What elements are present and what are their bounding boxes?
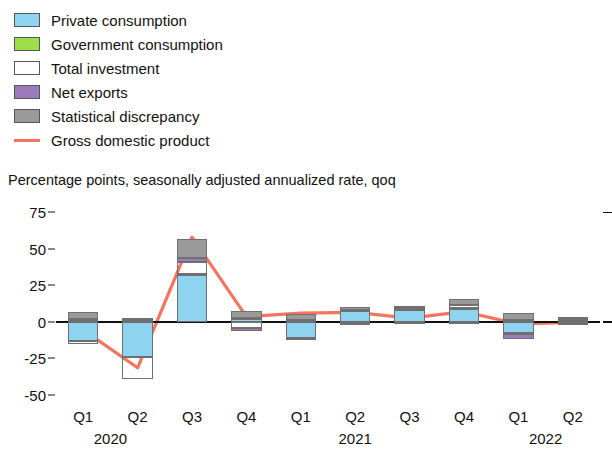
legend-item: Government consumption [14,32,344,56]
legend-item-label: Private consumption [51,12,187,29]
x-tick-label: Q3 [400,408,420,425]
bar-segment [68,341,98,344]
bar-segment [122,318,152,320]
legend-line-icon [14,133,40,147]
y-tick-mark [48,212,55,213]
bar-segment [177,239,207,258]
bar-segment [68,312,98,319]
y-tick-mark-right [603,212,612,214]
bar-segment [177,275,207,322]
bar-segment [231,318,261,320]
bar-segment [558,317,588,319]
y-tick-mark [48,358,55,359]
y-tick-label: 0 [2,313,46,330]
y-tick-mark [48,248,55,249]
bar-segment [286,314,316,320]
x-tick-label: Q2 [563,408,583,425]
x-tick-label: Q4 [236,408,256,425]
legend-item: Private consumption [14,8,344,32]
legend-item-label: Statistical discrepancy [51,108,199,125]
bar-segment [286,322,316,338]
bar-segment [122,357,152,379]
chart-subtitle: Percentage points, seasonally adjusted a… [8,172,396,188]
y-tick-mark [48,285,55,286]
bar-segment [340,307,370,310]
y-tick-mark-right [603,321,612,323]
legend-item: Total investment [14,56,344,80]
legend-item-label: Gross domestic product [51,132,209,149]
y-tick-label: -50 [2,386,46,403]
x-tick-label: Q4 [454,408,474,425]
bar-segment [286,338,316,340]
legend-swatch-icon [14,37,40,51]
bar-segment [394,322,424,324]
x-tick-label: Q1 [508,408,528,425]
legend-item-label: Net exports [51,84,128,101]
bar-segment [449,308,479,310]
bar-segment [122,322,152,357]
bar-segment [231,311,261,318]
bar-segment [449,322,479,324]
bar-segment [286,320,316,322]
bar-segment [177,258,207,262]
legend-swatch-icon [14,13,40,27]
bar-segment [449,299,479,306]
bar-segment [449,309,479,322]
x-axis: Q1Q2Q3Q4Q1Q2Q3Q4Q1Q2202020212022 [56,408,600,450]
x-tick-label: Q1 [73,408,93,425]
x-tick-label: Q3 [182,408,202,425]
bar-segment [503,322,533,334]
bar-segment [503,334,533,338]
x-tick-label: Q1 [291,408,311,425]
legend-item: Net exports [14,80,344,104]
x-year-label: 2021 [339,430,372,447]
y-tick-label: 75 [2,204,46,221]
legend-item-label: Total investment [51,60,159,77]
legend-item-label: Government consumption [51,36,223,53]
y-tick-label: -25 [2,350,46,367]
bar-segment [503,320,533,322]
legend-item: Gross domestic product [14,128,344,152]
bar-segment [68,322,98,341]
bar-segment [177,262,207,274]
y-tick-label: 25 [2,277,46,294]
x-tick-label: Q2 [128,408,148,425]
x-year-label: 2022 [529,430,562,447]
bar-segment [340,323,370,325]
bar-segment [503,313,533,320]
legend-swatch-icon [14,109,40,123]
y-tick-mark [48,394,55,395]
x-tick-label: Q2 [345,408,365,425]
legend-item: Statistical discrepancy [14,104,344,128]
bar-segment [558,322,588,324]
chart-legend: Private consumptionGovernment consumptio… [14,8,344,152]
bar-segment [231,328,261,331]
bar-segment [449,305,479,308]
bar-segment [394,310,424,322]
y-tick-mark [48,321,55,322]
plot-area: 7550250-25-50 [56,205,600,405]
bar-segment [394,306,424,308]
bar-segment [340,311,370,322]
bar-segment [394,308,424,310]
y-tick-label: 50 [2,240,46,257]
bar-segment [68,319,98,321]
gdp-line-path [83,237,573,368]
x-year-label: 2020 [94,430,127,447]
bar-segment [340,310,370,312]
bar-segment [177,274,207,276]
legend-swatch-icon [14,61,40,75]
legend-swatch-icon [14,85,40,99]
